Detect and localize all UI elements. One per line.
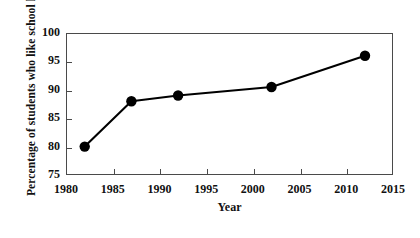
x-axis-tick bbox=[114, 169, 115, 174]
x-axis-tick bbox=[301, 169, 302, 174]
y-axis-title: Percentage of students who like school l… bbox=[20, 0, 42, 196]
line-chart: 7580859095100 19801985199019952000200520… bbox=[0, 0, 420, 238]
y-axis-tick bbox=[67, 62, 72, 63]
x-axis-tick bbox=[160, 169, 161, 174]
x-axis-title: Year bbox=[66, 200, 393, 215]
x-axis-tick bbox=[207, 169, 208, 174]
x-axis-tick-label: 2005 bbox=[278, 182, 322, 197]
x-axis-tick bbox=[347, 169, 348, 174]
plot-area bbox=[66, 33, 393, 175]
y-axis-tick bbox=[67, 91, 72, 92]
y-axis-tick bbox=[67, 148, 72, 149]
x-axis-tick-label: 1985 bbox=[91, 182, 135, 197]
y-axis-tick bbox=[67, 119, 72, 120]
x-axis-tick-label: 2010 bbox=[324, 182, 368, 197]
x-axis-tick-label: 1990 bbox=[137, 182, 181, 197]
x-axis-tick bbox=[254, 169, 255, 174]
x-axis-tick-label: 1995 bbox=[184, 182, 228, 197]
x-axis-tick-label: 2000 bbox=[231, 182, 275, 197]
x-axis-tick-label: 2015 bbox=[371, 182, 415, 197]
x-axis-tick-label: 1980 bbox=[44, 182, 88, 197]
